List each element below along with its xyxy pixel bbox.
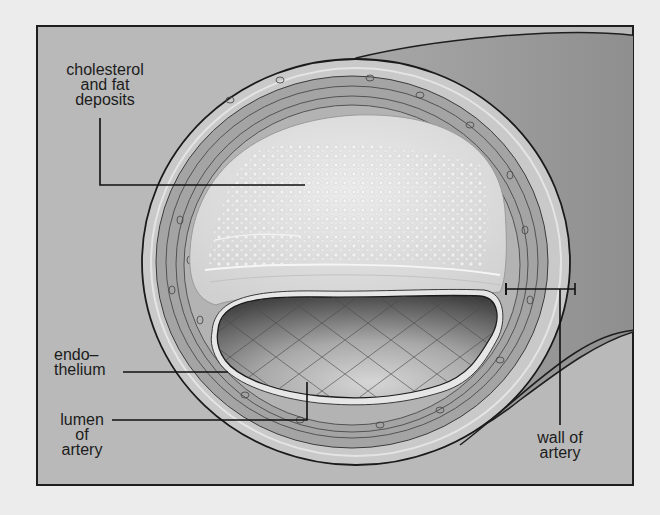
artery-diagram: cholesterol and fat deposits endo– theli…	[0, 0, 660, 515]
label-wall: wall of artery	[526, 430, 594, 460]
label-wall-line-1: wall of	[526, 430, 594, 445]
label-endothelium-line-2: thelium	[54, 362, 106, 377]
label-lumen: lumen of artery	[52, 412, 112, 457]
label-cholesterol-line-3: deposits	[52, 92, 158, 107]
label-lumen-line-1: lumen	[52, 412, 112, 427]
label-cholesterol-line-1: cholesterol	[52, 62, 158, 77]
label-lumen-line-3: artery	[52, 442, 112, 457]
label-endothelium-line-1: endo–	[54, 347, 106, 362]
label-cholesterol: cholesterol and fat deposits	[52, 62, 158, 107]
label-endothelium: endo– thelium	[54, 347, 106, 377]
label-wall-line-2: artery	[526, 445, 594, 460]
label-lumen-line-2: of	[52, 427, 112, 442]
label-cholesterol-line-2: and fat	[52, 77, 158, 92]
